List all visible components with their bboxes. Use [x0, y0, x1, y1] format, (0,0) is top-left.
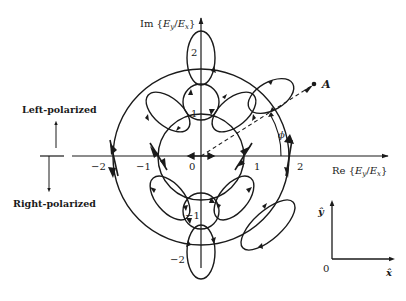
polarization-diagram: A ϕ −2 −1 0 1 2 2 1 −1 −2 Re {Ey/Ex} Im … [0, 0, 406, 301]
right-polarized-label: Right-polarized [13, 198, 96, 209]
axes [72, 18, 388, 268]
point-a-label: A [321, 78, 331, 91]
tick-y-neg1: −1 [185, 210, 200, 221]
tick-y-2: 2 [191, 47, 197, 58]
tick-x-0: 0 [189, 161, 195, 172]
ellipse-upper-left [139, 85, 197, 140]
tick-x-2: 2 [297, 161, 303, 172]
angle-label: ϕ [278, 129, 285, 140]
tick-y-1: 1 [191, 108, 197, 119]
y-hat-label: ŷ [317, 206, 325, 217]
tick-x-neg1: −1 [136, 161, 151, 172]
ellipses [139, 31, 303, 279]
unit-vectors-inset: ŷ x̂ 0 [317, 203, 393, 278]
tick-x-neg2: −2 [91, 161, 106, 172]
ray-to-a [201, 82, 316, 156]
tick-x-1: 1 [254, 161, 260, 172]
point-a-dot [312, 82, 317, 87]
imag-axis-label: Im {Ey/Ex} [140, 18, 195, 31]
inset-origin-label: 0 [323, 263, 329, 274]
ellipse-lower-right-outer [233, 192, 302, 258]
real-axis-label: Re {Ey/Ex} [332, 165, 387, 178]
tick-y-neg2: −2 [170, 254, 185, 265]
left-polarized-label: Left-polarized [22, 104, 97, 115]
x-hat-label: x̂ [385, 267, 393, 278]
